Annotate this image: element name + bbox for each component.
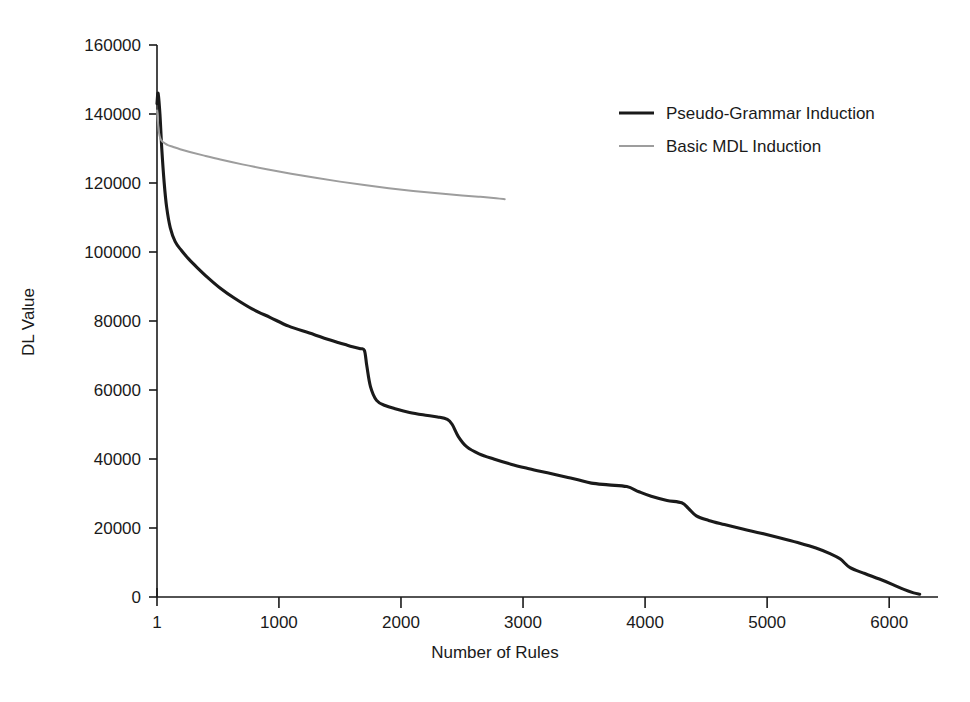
y-tick-label: 80000 [94,312,141,331]
y-tick-label: 0 [132,588,141,607]
y-tick-label: 100000 [84,243,141,262]
y-axis-title: DL Value [19,288,38,356]
y-tick-label: 20000 [94,519,141,538]
y-axis-ticks [149,45,157,597]
chart-figure: 0200004000060000800001000001200001400001… [0,0,970,702]
y-tick-label: 120000 [84,174,141,193]
y-tick-label: 60000 [94,381,141,400]
x-axis: 1100020003000400050006000 [152,588,938,632]
y-tick-label: 40000 [94,450,141,469]
x-axis-title: Number of Rules [431,643,559,662]
chart-legend: Pseudo-Grammar Induction Basic MDL Induc… [619,104,875,156]
x-tick-label: 1000 [260,613,298,632]
x-axis-ticks [157,588,889,608]
x-axis-tick-labels: 1100020003000400050006000 [152,613,908,632]
x-tick-label: 6000 [870,613,908,632]
y-tick-label: 140000 [84,105,141,124]
y-axis-tick-labels: 0200004000060000800001000001200001400001… [84,36,141,607]
series-line-pseudo-grammar-induction [157,93,920,594]
x-tick-label: 2000 [382,613,420,632]
x-tick-label: 3000 [504,613,542,632]
x-tick-label: 1 [152,613,161,632]
legend-label-pseudo-grammar-induction: Pseudo-Grammar Induction [666,104,875,123]
x-tick-label: 5000 [748,613,786,632]
x-tick-label: 4000 [626,613,664,632]
series-line-basic-mdl-induction [157,111,505,200]
y-tick-label: 160000 [84,36,141,55]
line-chart-svg: 0200004000060000800001000001200001400001… [0,0,970,702]
legend-label-basic-mdl-induction: Basic MDL Induction [666,137,821,156]
data-series-group [157,93,920,594]
y-axis: 0200004000060000800001000001200001400001… [84,36,157,607]
